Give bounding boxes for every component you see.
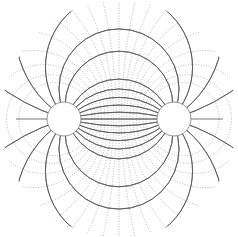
equipotential-lines (0, 0, 238, 237)
field-line-circle (15, 0, 223, 133)
field-line-circle (15, 0, 223, 133)
right-conductor (157, 102, 191, 136)
field-lines (0, 0, 238, 237)
bipolar-field-diagram (0, 0, 238, 237)
left-conductor (47, 102, 81, 136)
